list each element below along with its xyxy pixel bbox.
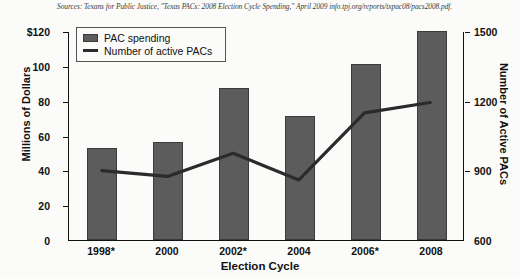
legend-label-active-pacs: Number of active PACs [104,45,212,57]
x-axis-title: Election Cycle [0,260,520,272]
y-axis-right-tick-1500: 1500 [474,26,497,38]
y-axis-left-tickmark-100 [63,67,68,68]
chart-figure: Sources: Texans for Public Justice, "Tex… [0,0,520,279]
line-series-active-pacs [69,32,463,240]
x-axis-tick-2002: 2002* [219,245,246,257]
y-axis-left-tick-0: 0 [44,235,50,247]
y-axis-right-tick-600: 600 [474,235,492,247]
plot-inner [69,32,463,240]
y-axis-left-tick-100: 100 [32,61,50,73]
legend-item-pac-spending: PAC spending [83,31,219,44]
y-axis-right-title: Number of Active PACs [498,49,510,199]
legend-bar-swatch-icon [83,34,98,42]
y-axis-left-tick-120: $120 [27,26,50,38]
x-axis-tick-2008: 2008 [419,245,442,257]
legend-label-pac-spending: PAC spending [104,32,170,44]
y-axis-left-tickmark-80 [63,102,68,103]
y-axis-left-tick-80: 80 [38,96,50,108]
y-axis-right-tick-1200: 1200 [474,96,497,108]
x-axis-tick-2000: 2000 [155,245,178,257]
y-axis-left-tickmark-20 [63,206,68,207]
y-axis-left-title: Millions of Dollars [20,44,32,184]
y-axis-right-tickmark-900 [465,171,470,172]
y-axis-left-tick-20: 20 [38,200,50,212]
plot-area [68,32,464,241]
y-axis-left-tickmark-120 [63,32,68,33]
y-axis-left-tick-40: 40 [38,165,50,177]
x-axis-tick-1998: 1998* [87,245,114,257]
legend-line-swatch-icon [83,49,98,52]
y-axis-right-tickmark-1500 [465,32,470,33]
legend-item-active-pacs: Number of active PACs [83,44,219,57]
x-axis-tick-2004: 2004 [287,245,310,257]
y-axis-left-tickmark-40 [63,171,68,172]
y-axis-right-tickmark-1200 [465,102,470,103]
y-axis-right-tick-900: 900 [474,165,492,177]
source-note: Sources: Texans for Public Justice, "Tex… [57,2,509,11]
y-axis-left-tickmark-60 [63,137,68,138]
y-axis-left-tick-60: 60 [38,131,50,143]
x-axis-tick-2006: 2006* [351,245,378,257]
chart-legend: PAC spending Number of active PACs [76,27,226,62]
